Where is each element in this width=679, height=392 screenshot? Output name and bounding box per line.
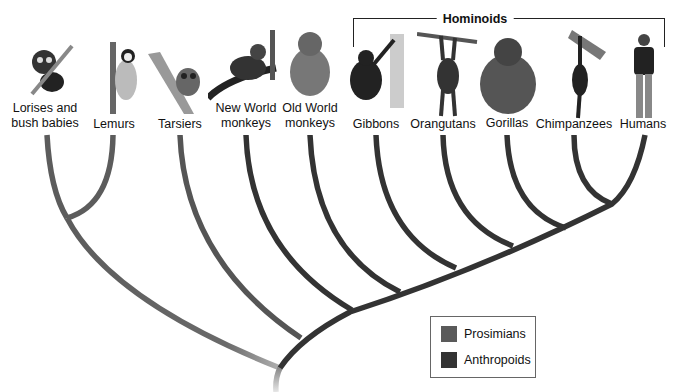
branch-gorillas	[507, 135, 566, 228]
phylogenetic-tree	[0, 0, 679, 392]
branch-orangutans	[443, 135, 513, 246]
branch-lemurs	[67, 135, 113, 218]
anthropoids-swatch	[441, 352, 457, 368]
legend: Prosimians Anthropoids	[430, 316, 536, 378]
legend-item-prosimians: Prosimians	[441, 326, 526, 342]
branch-old-world-monkeys	[310, 135, 400, 292]
branch-chimpanzees	[574, 135, 612, 204]
branch-tarsiers	[180, 135, 301, 338]
branch-root	[276, 368, 280, 392]
legend-item-anthropoids: Anthropoids	[441, 352, 531, 368]
branch-new-world-monkeys	[246, 135, 352, 310]
prosimians-swatch	[441, 326, 457, 342]
branch-lorises	[47, 135, 67, 218]
